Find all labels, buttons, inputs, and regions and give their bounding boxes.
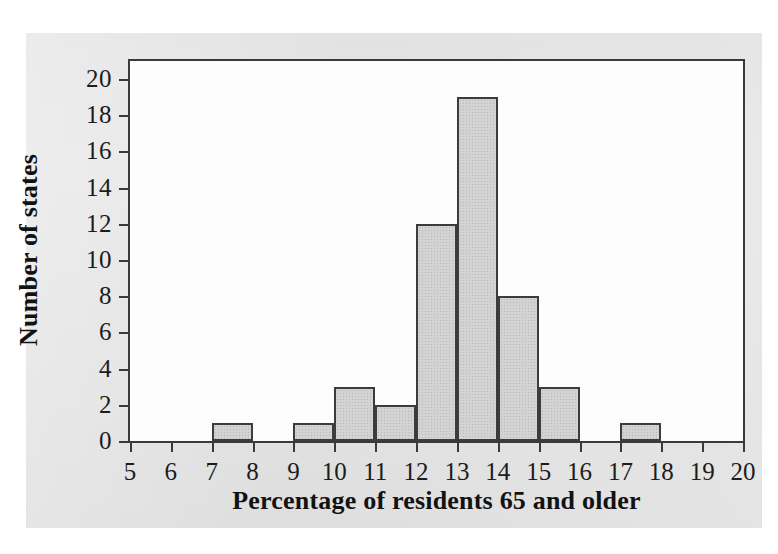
x-axis-tick-label: 6 [165,459,178,484]
y-axis-tick-label: 20 [86,66,112,91]
x-axis-tick [253,441,255,452]
x-axis-tick [539,441,541,452]
x-axis-tick-label: 14 [485,459,510,484]
histogram-bar [212,423,253,441]
x-axis-tick-label: 10 [322,459,347,484]
y-axis-tick [119,115,130,117]
figure-canvas: 02468101214161820 5678910111213141516171… [0,0,778,554]
y-axis-tick [119,441,130,443]
y-axis-tick-label: 6 [99,319,112,344]
x-axis-tick-label: 9 [287,459,300,484]
x-axis-tick [620,441,622,452]
x-axis-tick-label: 7 [205,459,218,484]
y-axis-tick [119,405,130,407]
y-axis-tick [119,79,130,81]
x-axis-tick [743,441,745,452]
histogram-bar [539,387,580,441]
y-axis-tick-label: 16 [86,138,112,163]
y-axis-tick-label: 12 [86,211,112,236]
x-axis-tick [212,441,214,452]
x-axis-tick [661,441,663,452]
histogram-bar [375,405,416,441]
x-axis-tick-label: 16 [567,459,592,484]
x-axis-tick [457,441,459,452]
histogram-bar [334,387,375,441]
x-axis-tick [375,441,377,452]
y-axis-tick [119,260,130,262]
histogram-bar [620,423,661,441]
x-axis-tick-label: 17 [608,459,633,484]
x-axis-tick [171,441,173,452]
plot-frame [128,59,745,443]
histogram-bar [416,224,457,441]
y-axis-tick [119,332,130,334]
y-axis-tick-label: 4 [99,356,112,381]
x-axis-tick-label: 18 [649,459,674,484]
x-axis-tick [293,441,295,452]
plot-surface [130,61,743,441]
x-axis-tick [334,441,336,452]
y-axis-tick-label: 14 [86,175,112,200]
x-axis-tick-label: 12 [404,459,429,484]
x-axis-tick [498,441,500,452]
y-axis-tick [119,369,130,371]
y-axis-tick [119,188,130,190]
histogram-bar [293,423,334,441]
histogram-bar [498,296,539,441]
x-axis-tick [702,441,704,452]
y-axis-tick [119,296,130,298]
x-axis-tick [130,441,132,452]
y-axis-tick-label: 10 [86,247,112,272]
y-axis-tick [119,224,130,226]
x-axis-tick-label: 19 [690,459,715,484]
y-axis-title: Number of states [14,100,44,400]
histogram-bar [457,97,498,441]
y-axis-tick-label: 8 [99,283,112,308]
x-axis-tick-label: 5 [124,459,137,484]
x-axis-tick [416,441,418,452]
x-axis-tick [580,441,582,452]
x-axis-tick-label: 20 [731,459,756,484]
y-axis-tick [119,151,130,153]
y-axis-tick-label: 0 [99,428,112,453]
y-axis-tick-label: 2 [99,392,112,417]
x-axis-tick-label: 8 [246,459,259,484]
x-axis-tick-label: 13 [444,459,469,484]
x-axis-tick-label: 15 [526,459,551,484]
y-axis-tick-label: 18 [86,102,112,127]
x-axis-title: Percentage of residents 65 and older [128,486,745,516]
x-axis-tick-label: 11 [363,459,387,484]
